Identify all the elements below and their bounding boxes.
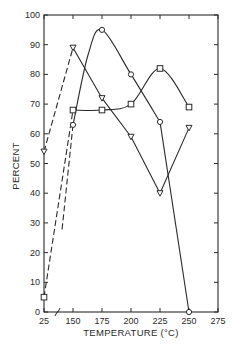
circle-marker-icon <box>99 27 104 32</box>
triangle-marker-icon <box>157 191 163 197</box>
square-marker-icon <box>41 294 47 300</box>
triangle-marker-icon <box>186 125 192 131</box>
y-axis-title: PERCENT <box>10 142 21 190</box>
x-tick-label: 225 <box>152 316 167 326</box>
triangle-marker-icon <box>70 45 76 51</box>
square-marker-icon <box>70 107 76 113</box>
square-marker-icon <box>186 104 192 110</box>
series-circles-dashed <box>62 125 73 230</box>
circle-marker-icon <box>186 309 191 314</box>
y-tick-label: 50 <box>30 159 40 169</box>
y-tick-label: 20 <box>30 248 40 258</box>
circle-marker-icon <box>128 72 133 77</box>
y-tick-label: 70 <box>30 99 40 109</box>
square-marker-icon <box>157 66 163 72</box>
y-tick-label: 60 <box>30 129 40 139</box>
x-tick-label: 200 <box>123 316 138 326</box>
y-tick-label: 100 <box>25 10 40 20</box>
series-squares-dashed <box>44 110 73 297</box>
x-tick-label: 175 <box>94 316 109 326</box>
y-tick-label: 10 <box>30 277 40 287</box>
circle-marker-icon <box>70 122 75 127</box>
x-axis-title: TEMPERATURE (°C) <box>83 327 179 338</box>
chart: 0102030405060708090100251501752002252502… <box>0 0 236 347</box>
x-tick-label: 25 <box>39 316 49 326</box>
square-marker-icon <box>128 101 134 107</box>
triangle-marker-icon <box>41 149 47 155</box>
x-tick-label: 275 <box>210 316 225 326</box>
y-tick-label: 30 <box>30 218 40 228</box>
square-marker-icon <box>99 107 105 113</box>
y-tick-label: 80 <box>30 69 40 79</box>
x-tick-label: 150 <box>65 316 80 326</box>
x-tick-label: 250 <box>181 316 196 326</box>
circle-marker-icon <box>157 119 162 124</box>
series-circles-drop <box>160 122 189 312</box>
series-triangles-line <box>73 48 189 194</box>
triangle-marker-icon <box>128 134 134 140</box>
chart-svg: 0102030405060708090100251501752002252502… <box>0 0 236 347</box>
y-tick-label: 40 <box>30 188 40 198</box>
y-tick-label: 90 <box>30 40 40 50</box>
